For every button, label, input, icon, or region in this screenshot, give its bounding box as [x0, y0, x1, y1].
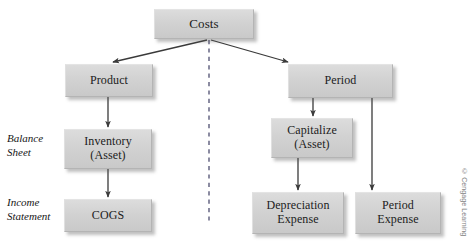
node-inventory-asset[interactable]: Inventory (Asset): [64, 129, 152, 169]
node-product-label: Product: [90, 74, 128, 88]
edge-costs-to-product: [113, 40, 207, 62]
copyright-credit: © Cengage Learning: [454, 168, 468, 242]
node-period-label: Period: [325, 74, 357, 88]
node-period-expense-label: Period Expense: [377, 199, 418, 227]
node-costs[interactable]: Costs: [154, 9, 254, 39]
node-costs-label: Costs: [189, 16, 218, 31]
node-period-expense[interactable]: Period Expense: [355, 192, 441, 234]
node-period[interactable]: Period: [288, 64, 393, 98]
node-capitalize-asset[interactable]: Capitalize (Asset): [271, 118, 353, 158]
row-label-income-statement: Income Statement: [7, 195, 50, 223]
node-depreciation-expense[interactable]: Depreciation Expense: [252, 192, 344, 234]
node-product[interactable]: Product: [65, 64, 153, 97]
edge-costs-to-period: [211, 40, 288, 62]
diagram-canvas: Costs Product Period Inventory (Asset) C…: [0, 0, 469, 246]
node-cogs[interactable]: COGS: [64, 199, 152, 232]
row-label-balance-sheet: Balance Sheet: [7, 131, 43, 159]
node-capitalize-asset-label: Capitalize (Asset): [287, 124, 337, 152]
node-inventory-asset-label: Inventory (Asset): [84, 135, 132, 163]
node-cogs-label: COGS: [92, 209, 124, 223]
node-depreciation-expense-label: Depreciation Expense: [266, 199, 329, 227]
